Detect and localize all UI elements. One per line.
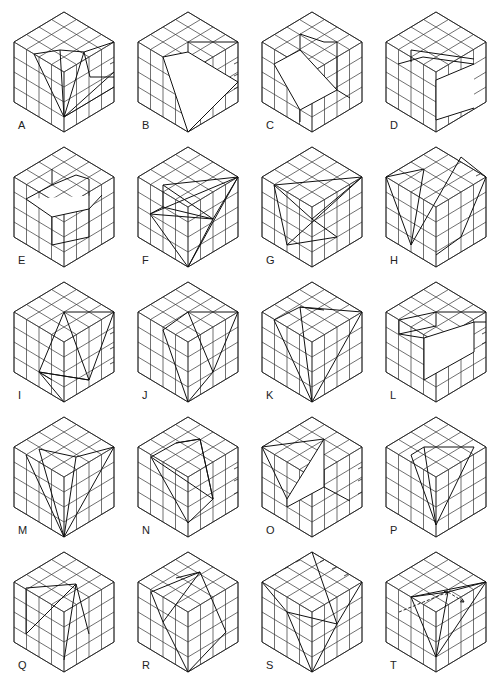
cube-label: T [390,659,397,671]
cube-t: T [386,552,486,672]
cut-line [337,90,350,98]
cube-label: A [18,119,26,131]
cube-r: R [138,552,238,672]
cut-line [64,447,114,537]
cube-e: E [14,147,114,267]
cut-line [461,157,486,177]
cube-o: O [262,417,362,537]
cut-line [64,457,76,537]
cube-label: E [18,254,25,266]
cube-s: S [262,552,362,672]
cut-line [34,54,64,117]
cube-a: A [14,12,114,132]
cut-line [151,457,213,499]
cube-m: M [14,417,114,537]
cube-label: N [142,524,150,536]
cut-line [151,439,213,523]
cut-line [26,584,76,588]
cube-label: S [266,659,273,671]
cube-label: H [390,254,398,266]
cube-label: F [142,254,149,266]
cut-line [398,57,474,64]
cube-label: K [266,389,274,401]
cube-c: C [262,12,362,132]
cube-q: Q [14,552,114,672]
cube-label: Q [18,659,27,671]
cut-line [26,455,64,537]
cube-label: L [390,389,396,401]
cut-line [60,50,64,117]
cube-label: C [266,119,274,131]
cube-p: P [386,417,486,537]
cube-label: G [266,254,275,266]
cube-label: R [142,659,150,671]
cube-label: O [266,524,275,536]
cut-line [26,584,76,660]
cube-label: M [18,524,27,536]
cut-line [411,447,474,525]
cube-label: P [390,524,397,536]
cube-g: G [262,147,362,267]
cut-line [52,237,89,245]
cube-f: F [138,147,238,267]
cube-d: D [386,12,486,132]
cut-line [84,52,114,77]
cube-label: J [142,389,148,401]
cube-label: D [390,119,398,131]
cube-label: I [18,389,21,401]
cut-line [176,439,200,443]
cut-line [76,584,89,634]
cube-b: B [138,12,238,132]
cube-h: H [386,147,486,267]
cube-label: B [142,119,149,131]
cut-line [300,307,312,402]
cube-j: J [138,282,238,402]
cube-k: K [262,282,362,402]
cube-i: I [14,282,114,402]
cube-puzzle-figure: ABCDEFGHIJKLMNOPQRST [0,0,498,683]
cube-l: L [386,282,486,402]
cube-n: N [138,417,238,537]
